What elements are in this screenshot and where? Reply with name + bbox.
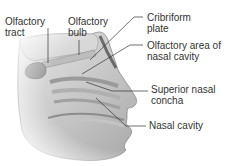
label-nasal-cavity: Nasal cavity: [149, 120, 203, 131]
label-olfactory-area: Olfactory area of nasal cavity: [147, 40, 221, 62]
label-superior-nasal-concha: Superior nasal concha: [151, 84, 215, 106]
label-olfactory-tract: Olfactory tract: [5, 16, 45, 38]
label-olfactory-bulb: Olfactory bulb: [68, 16, 108, 38]
label-cribriform-plate: Cribriform plate: [147, 12, 191, 34]
